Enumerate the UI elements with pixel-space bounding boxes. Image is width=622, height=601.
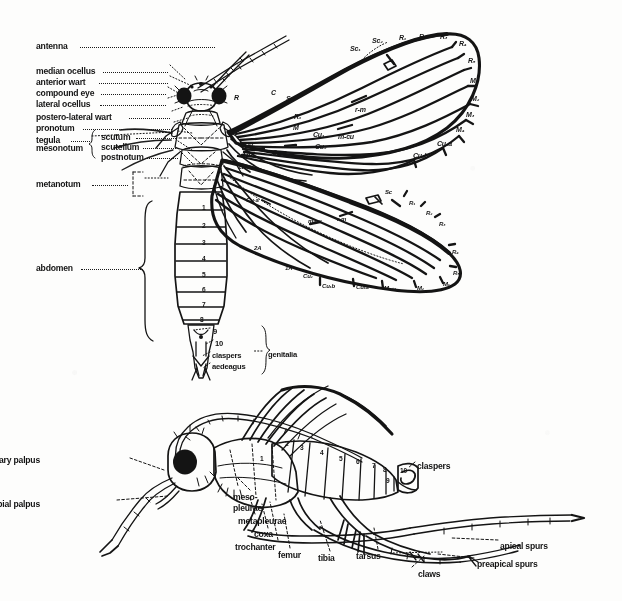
forewing-vein-R1: R₁	[294, 113, 301, 120]
forewing-vein-Cu-a: Cu-a	[272, 149, 287, 156]
leader-dots-lateral-ocellus	[100, 105, 166, 107]
leader-dots-anterior-wart	[99, 83, 168, 85]
hindwing-h-vein-M2: M₂	[417, 285, 424, 291]
hindwing-h-vein-Cu1a: Cu₁a	[356, 284, 369, 290]
hindwing	[212, 160, 461, 292]
label-tibia: tibia	[318, 554, 335, 563]
abdomen-brace	[139, 201, 153, 341]
forewing-vein-M4-ap: M₄	[456, 126, 464, 133]
leader-dots-compound-eye	[101, 94, 166, 96]
label-anterior-wart: anterior wart	[36, 78, 85, 87]
label-claspers: claspers	[212, 352, 241, 360]
dorsal-segment-2: 2	[202, 223, 205, 230]
lateral-segment-5: 5	[339, 456, 342, 463]
forewing-vein-R5-ap: R₅	[468, 57, 475, 64]
lateral-segment-10: 10	[400, 468, 407, 475]
leader-dots-scutum	[136, 138, 176, 140]
label-metapleurae: metapleurae	[238, 517, 286, 526]
label-mesonotum: mesonotum	[36, 144, 83, 153]
hindwing-h-vein-R2: R₂	[426, 210, 432, 216]
hindwing-h-vein-R1: R₁	[409, 200, 415, 206]
abdomen-dorsal	[175, 192, 227, 324]
mesonotum-brace	[89, 130, 95, 158]
forewing-vein-Cu2: Cu₂	[315, 143, 326, 150]
dorsal-figure	[89, 34, 479, 380]
label-lateral-ocellus: lateral ocellus	[36, 100, 90, 109]
labial-palpus	[156, 487, 179, 509]
label-postnotum: postnotum	[101, 153, 144, 162]
dorsal-segment-3: 3	[202, 240, 205, 247]
lateral-segment-9: 9	[386, 478, 389, 485]
label-meso-pleurae-2: pleurae	[233, 504, 262, 513]
label-claspers-lat: claspers	[417, 462, 450, 471]
forewing-vein-Sc: Sc	[286, 95, 294, 102]
leader-dots-postnotum	[145, 158, 178, 160]
label-maxillary-palpus: maxillary palpus	[0, 456, 40, 465]
label-median-ocellus: median ocellus	[36, 67, 95, 76]
forewing-crossvein-r-m: r-m	[355, 106, 366, 113]
label-aedeagus: aedeagus	[212, 363, 245, 371]
hindwing-h-vein-R3: R₃	[439, 221, 445, 227]
forewing-vein-2A: 2A	[238, 163, 247, 170]
forewing-vein-M: M	[293, 124, 299, 131]
label-seg-9: 9	[213, 328, 217, 336]
hindwing-h-vein-1A: 1A	[285, 265, 292, 271]
forewing-vein-Sc2: Sc₂	[372, 37, 383, 44]
forewing-vein-R3-ap: R₃	[440, 33, 447, 40]
label-trochanter: trochanter	[235, 543, 276, 552]
forewing-vein-Sc1: Sc₁	[350, 45, 360, 52]
label-genitalia: genitalia	[268, 351, 297, 359]
label-scutellum: scutellum	[101, 143, 139, 152]
lateral-wings	[242, 386, 392, 456]
leader-dots-antenna	[80, 47, 215, 49]
dorsal-legs	[156, 128, 246, 176]
label-scutum: scutum	[101, 133, 130, 142]
lateral-segment-6: 6	[356, 459, 359, 466]
forewing-vein-Cu: Cu	[244, 142, 253, 149]
hindwing-h-vein-Cu1b: Cu₁b	[322, 283, 335, 289]
dorsal-segment-6: 6	[202, 287, 205, 294]
lateral-segment-7: 7	[372, 463, 375, 470]
label-labial-palpus: labial palpus	[0, 500, 40, 509]
leader-dots-abdomen	[81, 269, 143, 271]
forewing-vein-Cu1a-ap: Cu₁a	[437, 140, 452, 147]
label-pronotum: pronotum	[36, 124, 75, 133]
maxillary-palpus	[100, 478, 175, 556]
label-femur: femur	[278, 551, 301, 560]
dorsal-segment-4: 4	[202, 256, 205, 263]
antenna-left	[198, 36, 289, 92]
label-apical-spurs: apical spurs	[500, 542, 548, 551]
hindwing-h-vein-2A: 2A	[254, 245, 261, 251]
leader-dots-median-ocellus	[103, 72, 168, 74]
leader-dots-metanotum	[92, 185, 128, 187]
forewing-vein-C: C	[271, 89, 276, 96]
dorsal-segment-1: 1	[202, 205, 205, 212]
lateral-segment-4: 4	[320, 450, 323, 457]
label-postero-lateral-wart: postero-lateral wart	[36, 113, 112, 122]
lateral-segment-1: 1	[260, 456, 263, 463]
hindwing-h-vein-r-m: r-m	[337, 216, 346, 222]
lateral-segment-8: 8	[383, 467, 386, 474]
hindwing-h-vein-Sc: Sc	[385, 189, 392, 195]
dorsal-segment-8: 8	[200, 317, 203, 324]
label-abdomen: abdomen	[36, 264, 73, 273]
forewing-vein-M1-ap: M₁	[470, 77, 478, 84]
lateral-figure	[100, 386, 584, 566]
forewing-vein-M3-ap: M₃	[466, 111, 474, 118]
label-preapical-spurs: preapical spurs	[477, 560, 538, 569]
label-claws: claws	[418, 570, 440, 579]
hindwing-h-vein-R5: R₅	[453, 270, 459, 276]
forewing-vein-R2-ap: R₂	[419, 33, 426, 40]
label-seg-10: 10	[215, 340, 223, 348]
forewing-vein-Cu1b-ap: Cu₁b	[413, 152, 428, 159]
label-metanotum: metanotum	[36, 180, 81, 189]
forewing-vein-1A: 1A	[242, 151, 251, 158]
hindwing-h-vein-M34: M₃₊₄	[384, 285, 396, 291]
dorsal-segment-7: 7	[202, 302, 205, 309]
forewing-vein-R: R	[234, 94, 239, 101]
hindwing-h-vein-Cu-a: Cu-a	[246, 197, 259, 203]
dorsal-segment-5: 5	[202, 272, 205, 279]
hindwing-h-vein-Cu2: Cu₂	[303, 273, 313, 279]
lateral-abdomen	[272, 440, 418, 500]
label-compound-eye: compound eye	[36, 89, 94, 98]
